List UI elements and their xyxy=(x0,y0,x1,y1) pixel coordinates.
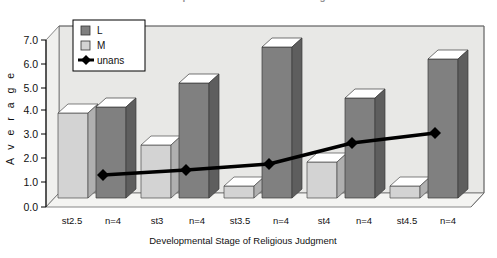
y-axis-title: A v e r a g e xyxy=(4,70,16,165)
bar-group-st2.5 xyxy=(58,98,136,198)
x-tick-7: n=4 xyxy=(356,215,372,226)
legend-label-m: M xyxy=(97,40,105,51)
y-tick-7: 7.0 xyxy=(23,34,38,46)
bar-l-5 xyxy=(428,50,468,198)
chart-figure: Comparison of Means Across Stages xyxy=(0,0,497,258)
x-tick-9: n=4 xyxy=(440,215,456,226)
bar-l-1 xyxy=(96,98,136,198)
x-tick-0: st2.5 xyxy=(62,215,83,226)
x-axis-title: Developmental Stage of Religious Judgmen… xyxy=(149,235,337,246)
bar-l-3 xyxy=(262,38,302,198)
bar-m-1 xyxy=(58,104,98,198)
y-tick-3: 3.0 xyxy=(23,128,38,140)
y-tick-1: 1.0 xyxy=(23,176,38,188)
chart-legend[interactable]: L M unans xyxy=(73,20,145,71)
legend-label-unans: unans xyxy=(97,55,124,66)
y-axis-tick-labels: 0.0 1.0 2.0 3.0 4.0 5.0 6.0 7.0 xyxy=(23,34,38,213)
y-tick-5: 5.0 xyxy=(23,82,38,94)
y-tick-4: 4.0 xyxy=(23,104,38,116)
bar-m-2 xyxy=(141,136,181,198)
x-tick-6: st4 xyxy=(318,215,331,226)
bar-m-4 xyxy=(307,153,347,198)
y-tick-6: 6.0 xyxy=(23,58,38,70)
x-tick-2: st3 xyxy=(151,215,164,226)
y-axis-title-text: A v e r a g e xyxy=(4,70,16,165)
bar-chart-canvas: 0.0 1.0 2.0 3.0 4.0 5.0 6.0 7.0 A v e r … xyxy=(0,0,497,258)
y-tick-0: 0.0 xyxy=(23,201,38,213)
bar-m-5 xyxy=(390,177,430,198)
y-axis xyxy=(41,40,46,207)
x-tick-8: st4.5 xyxy=(397,215,418,226)
x-axis-tick-labels: st2.5 n=4 st3 n=4 st3.5 n=4 st4 n=4 st4.… xyxy=(62,215,456,226)
x-tick-3: n=4 xyxy=(189,215,205,226)
x-tick-1: n=4 xyxy=(105,215,121,226)
bar-m-3 xyxy=(224,177,264,198)
legend-label-l: L xyxy=(97,25,103,36)
x-tick-4: st3.5 xyxy=(230,215,251,226)
x-tick-5: n=4 xyxy=(273,215,289,226)
y-tick-2: 2.0 xyxy=(23,152,38,164)
bar-l-2 xyxy=(179,74,219,198)
